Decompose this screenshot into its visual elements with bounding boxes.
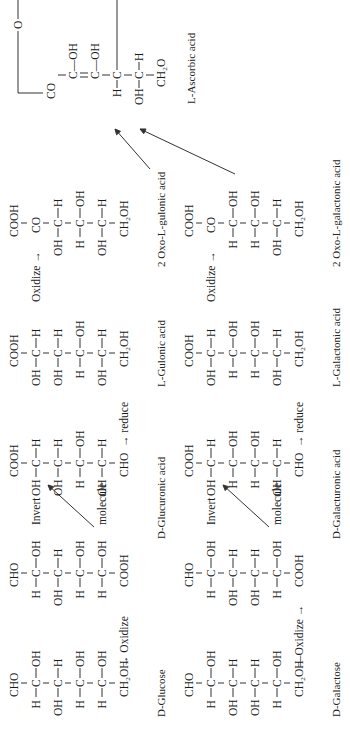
- ascorbic-carbonyl: CO: [45, 83, 57, 99]
- d-galactose-right-substituent: OH: [271, 650, 283, 667]
- d-galacturonic-acid-invert-arrow: [223, 485, 269, 527]
- d-galacturonic-acid-inverted-carbon: C: [249, 459, 261, 467]
- d-glucuronic-acid-left-substituent: OH: [52, 589, 64, 606]
- 2-oxo-l-galactonic-acid-carbonyl-group: CO: [205, 217, 217, 233]
- d-glucuronic-acid-carbon: C: [74, 569, 86, 577]
- ascorbic-c4-h: H: [111, 89, 123, 97]
- ascorbic-acid-label: L-Ascorbic acid: [185, 33, 197, 104]
- d-glucuronic-acid-bottom-group: COOH: [118, 554, 130, 587]
- d-glucose-right-substituent: OH: [30, 650, 42, 667]
- 2-oxo-l-gulonic-acid-right-substituent: OH: [74, 190, 86, 207]
- d-galacturonic-acid-inverted-left-substituent: H: [249, 480, 261, 488]
- d-galactose-label: D-Galactose: [330, 662, 342, 717]
- d-glucuronic-acid-right-substituent: OH: [96, 540, 108, 557]
- l-galactonic-acid-right-substituent: H: [205, 329, 217, 337]
- l-gulonic-acid-reaction-step: Oxidize →: [30, 251, 42, 302]
- d-galacturonic-acid-inverted-right-substituent: OH: [249, 430, 261, 447]
- 2-oxo-l-galactonic-acid-bottom-group: CH₂OH: [293, 200, 305, 237]
- d-glucose-right-substituent: OH: [96, 650, 108, 667]
- d-galactose-left-substituent: H: [205, 700, 217, 708]
- l-gulonic-acid-left-substituent: OH: [52, 369, 64, 386]
- l-gulonic-acid-carbon: C: [52, 349, 64, 357]
- d-galacturonic-acid-left-substituent: OH: [227, 589, 239, 606]
- d-glucose-right-substituent: H: [52, 659, 64, 667]
- d-galacturonic-acid-invert-label: Invert: [205, 498, 217, 525]
- d-galacturonic-acid-left-substituent: H: [271, 590, 283, 598]
- d-galacturonic-acid-inverted-top-group: COOH: [183, 444, 195, 477]
- l-gulonic-acid-right-substituent: OH: [74, 320, 86, 337]
- l-galactonic-acid-left-substituent: OH: [205, 369, 217, 386]
- d-glucuronic-acid-carbon: C: [52, 569, 64, 577]
- d-galacturonic-acid-bottom-group: COOH: [293, 554, 305, 587]
- l-gulonic-acid-left-substituent: OH: [30, 369, 42, 386]
- d-galacturonic-acid-inverted-bottom-group: CHO: [293, 453, 305, 477]
- d-galactose-right-substituent: OH: [205, 650, 217, 667]
- l-galactonic-acid-right-substituent: H: [271, 329, 283, 337]
- d-galacturonic-acid-top-group: CHO: [183, 563, 195, 587]
- ascorbic-c5-oh: OH: [133, 88, 145, 105]
- d-galacturonic-acid-carbon: C: [249, 569, 261, 577]
- 2-oxo-l-galactonic-acid-left-substituent: H: [249, 240, 261, 248]
- d-galacturonic-acid-right-substituent: H: [249, 549, 261, 557]
- l-gulonic-acid-carbon: C: [30, 349, 42, 357]
- l-gulonic-acid-left-substituent: H: [74, 370, 86, 378]
- l-gulonic-acid-left-substituent: OH: [96, 369, 108, 386]
- d-galactose-carbon: C: [271, 679, 283, 687]
- 2-oxo-l-gulonic-acid-carbonyl-group: CO: [30, 217, 42, 233]
- d-glucuronic-acid-left-substituent: H: [30, 590, 42, 598]
- 2-oxo-l-galactonic-acid-right-substituent: OH: [227, 190, 239, 207]
- d-galacturonic-acid-inverted-carbon: C: [271, 459, 283, 467]
- l-gulonic-acid-bottom-group: CH₂OH: [118, 330, 130, 367]
- d-galactose-left-substituent: OH: [227, 699, 239, 716]
- 2-oxo-l-gulonic-acid-top-group: COOH: [8, 204, 20, 237]
- d-glucuronic-acid-right-substituent: OH: [74, 540, 86, 557]
- d-glucuronic-acid-inverted-carbon: C: [30, 459, 42, 467]
- d-glucuronic-acid-inverted-right-substituent: H: [30, 439, 42, 447]
- d-galactose-left-substituent: OH: [249, 699, 261, 716]
- d-glucuronic-acid-right-substituent: H: [52, 549, 64, 557]
- d-galacturonic-acid-label: D-Galacturonic acid: [330, 450, 342, 539]
- d-glucuronic-acid-inverted-left-substituent: OH: [96, 479, 108, 496]
- d-galacturonic-acid-inverted-carbon: C: [227, 459, 239, 467]
- 2-oxo-l-galactonic-acid-top-group: COOH: [183, 204, 195, 237]
- l-gulonic-acid-carbon: C: [74, 349, 86, 357]
- ascorbic-c4: C: [111, 71, 123, 79]
- 2-oxo-l-galactonic-acid-carbon: C: [271, 219, 283, 227]
- 2-oxo-l-galactonic-acid-right-substituent: H: [271, 199, 283, 207]
- ascorbic-c2: C—OH: [67, 43, 79, 79]
- l-galactonic-acid-left-substituent: OH: [271, 369, 283, 386]
- d-glucuronic-acid-inverted-reaction-step: → reduce: [118, 402, 130, 447]
- d-galactose-right-substituent: H: [227, 659, 239, 667]
- d-glucose-reaction-step: → Oxidize: [118, 616, 130, 667]
- d-glucuronic-acid-inverted-right-substituent: H: [96, 439, 108, 447]
- l-gulonic-acid-carbon: C: [96, 349, 108, 357]
- d-glucuronic-acid-inverted-carbon: C: [96, 459, 108, 467]
- ascorbic-c5: C: [133, 71, 145, 79]
- 2-oxo-l-galactonic-acid-left-substituent: OH: [271, 239, 283, 256]
- d-glucuronic-acid-invert-label: Invert: [30, 498, 42, 525]
- 2-oxo-l-galactonic-acid-left-substituent: H: [227, 240, 239, 248]
- galactonic-to-ascorbic-arrow: [140, 129, 235, 174]
- l-galactonic-acid-carbon: C: [227, 349, 239, 357]
- l-gulonic-acid-top-group: COOH: [8, 334, 20, 367]
- d-glucose-left-substituent: H: [96, 700, 108, 708]
- d-galactose-top-group: CHO: [183, 673, 195, 697]
- l-gulonic-acid-label: L-Gulonic acid: [155, 320, 167, 387]
- d-glucose-carbon: C: [52, 679, 64, 687]
- d-galactose-right-substituent: H: [249, 659, 261, 667]
- d-glucuronic-acid-inverted-right-substituent: H: [52, 439, 64, 447]
- 2-oxo-l-gulonic-acid-carbon: C: [74, 219, 86, 227]
- d-glucuronic-acid-inverted-left-substituent: OH: [30, 479, 42, 496]
- d-glucose-left-substituent: H: [74, 700, 86, 708]
- l-galactonic-acid-label: L-Galactonic acid: [330, 308, 342, 387]
- l-galactonic-acid-left-substituent: H: [249, 370, 261, 378]
- d-galacturonic-acid-right-substituent: OH: [205, 540, 217, 557]
- d-glucuronic-acid-label: D-Glucuronic acid: [155, 457, 167, 539]
- ascorbic-ring-oxygen: O: [12, 21, 24, 29]
- d-galacturonic-acid-right-substituent: H: [227, 549, 239, 557]
- d-glucuronic-acid-inverted-carbon: C: [52, 459, 64, 467]
- d-glucuronic-acid-inverted-left-substituent: OH: [52, 479, 64, 496]
- vitamin-c-biosynthesis-diagram: CHOHCOHOHCHHCOHHCOHCH₂OHD-Glucose→ Oxidi…: [0, 0, 350, 729]
- 2-oxo-l-galactonic-acid-right-substituent: OH: [249, 190, 261, 207]
- d-glucose-carbon: C: [30, 679, 42, 687]
